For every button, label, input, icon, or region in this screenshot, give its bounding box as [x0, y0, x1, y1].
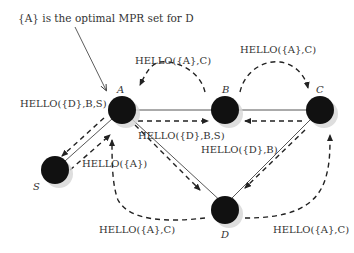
- node-label-b: B: [221, 84, 229, 95]
- node-s: [41, 156, 73, 188]
- msg-label-d-to-a: HELLO({A},C): [99, 224, 175, 235]
- link-c-d: [225, 110, 320, 205]
- msg-arrow-b-to-a: [140, 62, 205, 92]
- mpr-diagram: {A} is the optimal MPR set for D: [0, 0, 354, 253]
- mpr-annotation: {A} is the optimal MPR set for D: [18, 12, 194, 25]
- node-b: [211, 96, 243, 128]
- msg-arrow-b-to-c: [240, 62, 308, 92]
- node-label-c: C: [316, 84, 324, 95]
- msg-arrow-a-to-s: [62, 118, 104, 156]
- msg-label-c-to-d: HELLO({D},B): [201, 144, 278, 155]
- node-a: [108, 96, 140, 128]
- node-label-s: S: [33, 181, 40, 192]
- msg-arrow-d-to-a: [112, 140, 205, 220]
- msg-label-b-to-c: HELLO({A},C): [240, 44, 316, 55]
- msg-label-d-to-c: HELLO({A},C): [273, 224, 349, 235]
- node-label-d: D: [220, 229, 229, 240]
- msg-label-b-to-a: HELLO({A},C): [135, 55, 211, 66]
- node-c: [306, 96, 338, 128]
- node-d: [211, 196, 243, 228]
- msg-label-s-to-a: HELLO({A}): [82, 158, 147, 169]
- msg-label-a-to-b: HELLO({D},B,S): [138, 130, 225, 141]
- msg-arrow-c-to-d: [245, 130, 305, 188]
- annotation-pointer: [75, 27, 106, 90]
- node-label-a: A: [116, 84, 124, 95]
- msg-label-a-to-s: HELLO({D},B,S): [20, 98, 107, 109]
